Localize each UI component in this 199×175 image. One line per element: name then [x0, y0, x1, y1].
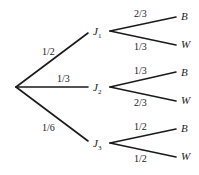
prob-j2-b: 1/3	[134, 65, 147, 76]
prob-j2-w: 2/3	[134, 97, 147, 108]
edge-j1-b	[110, 17, 176, 31]
leaf-j1-w: W	[181, 38, 191, 50]
node-j1: J1	[93, 25, 102, 40]
probability-tree-diagram: 1/2 1/3 1/6 J1 J2 J3 2/3 1/3 1/3 2/3 1/2…	[0, 0, 199, 175]
prob-j3: 1/6	[42, 122, 55, 133]
leaf-j2-b: B	[181, 66, 188, 78]
leaf-j3-b: B	[181, 122, 188, 134]
node-j3: J3	[93, 137, 102, 152]
leaf-j2-w: W	[181, 94, 191, 106]
prob-j1: 1/2	[42, 46, 55, 57]
leaf-j3-w: W	[181, 150, 191, 162]
prob-j3-w: 1/2	[134, 153, 147, 164]
prob-j1-w: 1/3	[134, 41, 147, 52]
prob-j3-b: 1/2	[134, 121, 147, 132]
prob-j2: 1/3	[57, 73, 70, 84]
prob-j1-b: 2/3	[134, 8, 147, 19]
edge-root-j1	[16, 33, 88, 87]
node-j2: J2	[93, 81, 102, 96]
leaf-j1-b: B	[181, 10, 188, 22]
